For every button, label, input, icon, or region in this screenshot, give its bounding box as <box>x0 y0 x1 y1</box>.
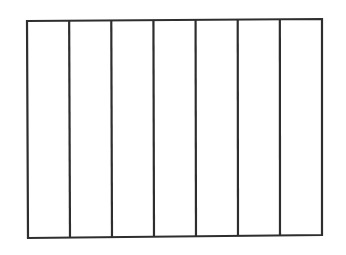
divider-line-3 <box>153 20 154 237</box>
strip-4 <box>153 20 196 237</box>
strip-7 <box>280 19 322 235</box>
strip-3 <box>111 20 154 237</box>
fraction-diagram <box>0 0 346 255</box>
divider-line-2 <box>111 20 112 237</box>
strip-6 <box>238 19 280 236</box>
strip-2 <box>69 20 112 237</box>
divider-line-1 <box>69 21 70 238</box>
strip-5 <box>196 20 238 237</box>
strip-1 <box>27 21 70 238</box>
strips-group <box>27 19 322 238</box>
